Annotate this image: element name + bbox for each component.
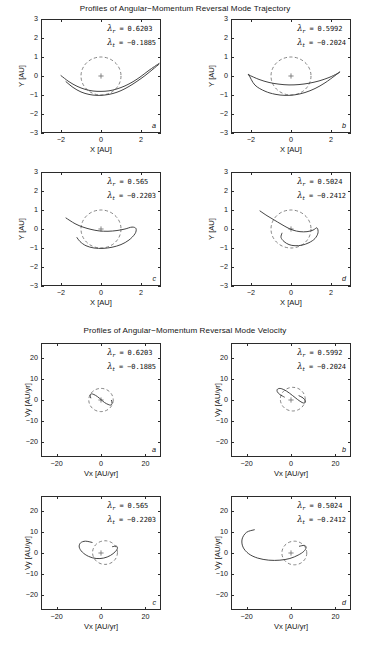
- lambda-t-row: λt = −0.1885: [107, 361, 156, 375]
- x-axis-label: Vx [AU/yr]: [84, 469, 118, 478]
- y-tick-mark: [348, 248, 351, 249]
- plot-panel-vel-b: 20100−10−20−20020Vx [AU/yr]Vy [AU/yr]λr …: [231, 343, 351, 457]
- y-tick-mark: [348, 511, 351, 512]
- x-tick-mark: [331, 172, 332, 175]
- x-tick-mark: [291, 496, 292, 499]
- x-tick-mark: [247, 343, 248, 346]
- y-tick-mark: [158, 229, 161, 230]
- y-tick-label: −10: [26, 571, 38, 578]
- x-tick-mark: [57, 496, 58, 499]
- lambda-r-row: λr = 0.5992: [297, 347, 346, 361]
- lambda-t-value: = −0.2024: [305, 363, 346, 371]
- plot-panel-traj-a: 3210−1−2−3−202X [AU]Y [AU]λr = 0.6203λt …: [41, 19, 161, 133]
- lambda-r-row: λr = 0.6203: [107, 347, 156, 361]
- velocity-circle-dashed-path: [280, 387, 305, 411]
- x-axis-label: X [AU]: [90, 298, 112, 307]
- y-tick-label: 3: [34, 15, 38, 22]
- y-tick-mark: [41, 248, 44, 249]
- x-tick-label: 0: [289, 613, 293, 620]
- lambda-r-value: = 0.5024: [305, 502, 342, 510]
- x-tick-label: 20: [331, 613, 339, 620]
- lambda-r-value: = 0.6203: [115, 25, 152, 33]
- x-axis-label: Vx [AU/yr]: [84, 622, 118, 631]
- y-tick-mark: [231, 38, 234, 39]
- trajectory-loop-path: [248, 72, 340, 96]
- y-axis-label: Vy [AU/yr]: [213, 536, 222, 570]
- lambda-r-value: = 0.5992: [305, 25, 342, 33]
- x-tick-label: −20: [240, 613, 252, 620]
- y-tick-label: −1: [30, 91, 38, 98]
- x-tick-mark: [331, 283, 332, 286]
- y-tick-label: 1: [224, 53, 228, 60]
- y-tick-mark: [231, 191, 234, 192]
- y-tick-mark: [348, 172, 351, 173]
- lambda-r-row: λr = 0.6203: [107, 23, 156, 37]
- plot-panel-vel-a: 20100−10−20−20020Vx [AU/yr]Vy [AU/yr]λr …: [41, 343, 161, 457]
- y-tick-label: 0: [224, 396, 228, 403]
- y-axis-label: Vy [AU/yr]: [23, 536, 32, 570]
- lambda-r-row: λr = 0.5992: [297, 23, 346, 37]
- plot-panel-traj-c: 3210−1−2−3−202X [AU]Y [AU]λr = 0.565λt =…: [41, 172, 161, 286]
- y-tick-mark: [158, 172, 161, 173]
- x-tick-mark: [141, 130, 142, 133]
- x-tick-mark: [145, 343, 146, 346]
- x-tick-label: −20: [240, 460, 252, 467]
- y-tick-label: 1: [34, 53, 38, 60]
- lambda-t-value: = −0.1885: [115, 39, 156, 47]
- lambda-t-value: = −0.2412: [305, 516, 346, 524]
- y-tick-mark: [41, 172, 44, 173]
- lambda-t-row: λt = −0.1885: [107, 37, 156, 51]
- x-tick-mark: [291, 283, 292, 286]
- y-tick-mark: [41, 19, 44, 20]
- x-axis-label: X [AU]: [90, 145, 112, 154]
- eigenvalue-annotation: λr = 0.565λt = −0.2203: [107, 500, 156, 528]
- y-axis-label: Y [AU]: [17, 65, 26, 87]
- panel-letter-label: c: [152, 598, 156, 607]
- y-tick-label: 10: [30, 528, 38, 535]
- y-tick-mark: [348, 553, 351, 554]
- y-tick-mark: [41, 57, 44, 58]
- y-tick-mark: [348, 114, 351, 115]
- y-tick-mark: [348, 574, 351, 575]
- x-tick-label: 2: [139, 289, 143, 296]
- velocity-group-title: Profiles of Angular−Momentum Reversal Mo…: [0, 326, 370, 335]
- lambda-r-row: λr = 0.565: [107, 500, 156, 514]
- x-tick-mark: [145, 607, 146, 610]
- lambda-t-row: λt = −0.2024: [297, 361, 346, 375]
- plot-panel-vel-c: 20100−10−20−20020Vx [AU/yr]Vy [AU/yr]λr …: [41, 496, 161, 610]
- lambda-t-value: = −0.2024: [305, 39, 346, 47]
- x-tick-mark: [247, 607, 248, 610]
- y-tick-mark: [348, 532, 351, 533]
- y-tick-mark: [41, 358, 44, 359]
- lambda-t-row: λt = −0.2203: [107, 190, 156, 204]
- velocity-circle-dashed-path: [282, 541, 307, 565]
- y-tick-mark: [348, 76, 351, 77]
- y-tick-mark: [231, 172, 234, 173]
- y-tick-mark: [348, 191, 351, 192]
- y-tick-mark: [231, 379, 234, 380]
- y-tick-label: −20: [216, 439, 228, 446]
- lambda-t-row: λt = −0.2412: [297, 514, 346, 528]
- y-tick-mark: [348, 229, 351, 230]
- x-tick-mark: [61, 130, 62, 133]
- y-tick-mark: [348, 286, 351, 287]
- lambda-r-value: = 0.565: [115, 178, 148, 186]
- y-tick-mark: [231, 95, 234, 96]
- eigenvalue-annotation: λr = 0.5024λt = −0.2412: [297, 176, 346, 204]
- y-tick-mark: [348, 358, 351, 359]
- y-tick-label: −10: [216, 571, 228, 578]
- y-tick-mark: [158, 248, 161, 249]
- y-tick-mark: [41, 229, 44, 230]
- lambda-t-value: = −0.1885: [115, 363, 156, 371]
- y-tick-label: −3: [30, 129, 38, 136]
- y-tick-label: −1: [220, 91, 228, 98]
- x-tick-label: −20: [50, 460, 62, 467]
- y-tick-label: 20: [30, 507, 38, 514]
- y-tick-mark: [348, 95, 351, 96]
- eigenvalue-annotation: λr = 0.5992λt = −0.2024: [297, 347, 346, 375]
- x-tick-mark: [291, 19, 292, 22]
- x-tick-mark: [61, 283, 62, 286]
- y-tick-mark: [231, 358, 234, 359]
- y-tick-label: −10: [216, 418, 228, 425]
- x-tick-mark: [291, 454, 292, 457]
